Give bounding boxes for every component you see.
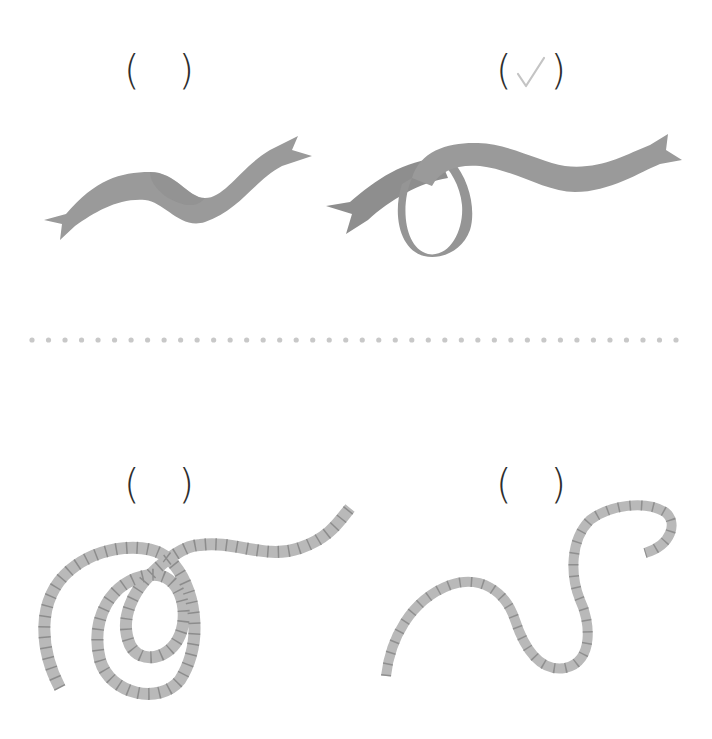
divider-dot [508,337,513,342]
divider-dot [343,337,348,342]
divider-dot [46,337,51,342]
divider-dot [327,337,332,342]
curved-rope-image [356,400,712,739]
item-rope-curved: ( ) [356,400,712,739]
divider-dot [79,337,84,342]
divider-dot [492,337,497,342]
divider-dot [607,337,612,342]
divider-dot [95,337,100,342]
divider-dot [409,337,414,342]
coiled-rope-image [0,400,370,739]
divider-dot [128,337,133,342]
divider-dot [244,337,249,342]
divider-dot [29,337,34,342]
divider-dot [393,337,398,342]
divider-dot [574,337,579,342]
divider-dot [261,337,266,342]
divider-dot [640,337,645,342]
divider-dot [277,337,282,342]
divider-dot [673,337,678,342]
divider-dot [360,337,365,342]
divider-dot [475,337,480,342]
divider-dot [195,337,200,342]
divider-dot [541,337,546,342]
divider-dot [145,337,150,342]
divider-dot [228,337,233,342]
divider-dot [376,337,381,342]
divider-dot [294,337,299,342]
divider-dot [62,337,67,342]
divider-dot [112,337,117,342]
item-rope-coiled: ( ) [0,400,370,739]
divider-dot [178,337,183,342]
divider-dot [591,337,596,342]
divider-dot [211,337,216,342]
divider-dot [459,337,464,342]
divider-dot [442,337,447,342]
item-ribbon-looped: ( ) [0,0,712,320]
divider-dot [525,337,530,342]
divider-dot [657,337,662,342]
divider-dot [310,337,315,342]
divider-dot [558,337,563,342]
looped-ribbon-image [0,0,712,320]
divider-dot [162,337,167,342]
dotted-divider [0,334,712,346]
divider-dot [426,337,431,342]
divider-dot [624,337,629,342]
